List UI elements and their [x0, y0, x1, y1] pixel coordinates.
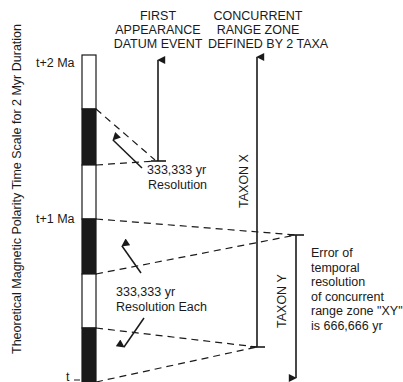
error-note-line-2: temporal	[311, 261, 403, 276]
fad-arrow	[151, 60, 166, 161]
resolution-each-line-1: 333,333 yr	[116, 285, 207, 300]
crz-header-line-2: RANGE ZONE	[208, 23, 308, 37]
resolution-single-line-2: Resolution	[147, 178, 207, 193]
taxon-x-range	[250, 57, 265, 347]
fad-header: FIRST APPEARANCE DATUM EVENT	[108, 9, 208, 51]
fad-header-line-3: DATUM EVENT	[108, 37, 208, 51]
crz-header-line-3: DEFINED BY 2 TAXA	[208, 37, 308, 51]
taxon-y-label: TAXON Y	[275, 274, 289, 328]
fad-header-line-1: FIRST	[108, 9, 208, 23]
error-note-line-4: of concurrent	[311, 290, 403, 305]
resolution-single-line-1: 333,333 yr	[147, 163, 207, 178]
segment-normal-1	[82, 55, 96, 109]
taxon-y-range	[289, 235, 304, 378]
tick-label-t-plus-1: t+1 Ma	[36, 212, 75, 226]
segment-reversed-3	[82, 328, 96, 382]
dashed-correlation-lines	[96, 109, 296, 382]
fad-header-line-2: APPEARANCE	[108, 23, 208, 37]
resolution-each-line-2: Resolution Each	[116, 300, 207, 315]
crz-header-line-1: CONCURRENT	[208, 9, 308, 23]
resolution-pointers	[113, 140, 144, 347]
resolution-each-label: 333,333 yr Resolution Each	[116, 285, 207, 314]
error-note-line-1: Error of	[311, 246, 403, 261]
segment-normal-3	[82, 274, 96, 328]
crz-header: CONCURRENT RANGE ZONE DEFINED BY 2 TAXA	[208, 9, 308, 51]
error-note: Error of temporal resolution of concurre…	[311, 246, 403, 333]
resolution-single-label: 333,333 yr Resolution	[147, 163, 207, 192]
tick-label-t-plus-2: t+2 Ma	[36, 56, 75, 70]
tick-label-t: t	[66, 370, 69, 382]
error-note-line-3: resolution	[311, 275, 403, 290]
polarity-column	[82, 55, 96, 382]
taxon-x-label: TAXON X	[237, 154, 251, 208]
axis-title: Theoretical Magnetic Polarity Time Scale…	[10, 24, 24, 354]
segment-reversed-2	[82, 219, 96, 274]
error-note-line-6: is 666,666 yr	[311, 319, 403, 334]
error-note-line-5: range zone "XY"	[311, 304, 403, 319]
segment-normal-2	[82, 165, 96, 219]
segment-reversed-1	[82, 109, 96, 165]
